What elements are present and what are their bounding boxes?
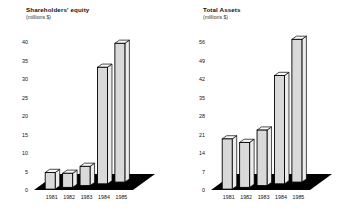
bar-side-face <box>284 72 289 184</box>
bar-front-face <box>274 75 284 183</box>
bar-front-face <box>222 139 232 189</box>
x-axis-label-1982: 1982 <box>63 194 75 200</box>
y-axis-tick-label: 25 <box>22 95 28 101</box>
x-axis-label-1983: 1983 <box>81 194 93 200</box>
y-axis-tick-label: 28 <box>199 113 205 119</box>
bar-chart-svg: 051015202530354019851984198319821981 <box>0 0 177 212</box>
y-axis-tick-label: 0 <box>202 187 205 193</box>
x-axis-label-1981: 1981 <box>223 194 235 200</box>
bar-front-face <box>45 172 55 189</box>
x-axis-label-1985: 1985 <box>115 194 127 200</box>
bar-front-face <box>115 43 125 182</box>
bar-side-face <box>232 136 237 189</box>
bar-1983 <box>80 163 95 185</box>
bar-side-face <box>302 36 307 182</box>
x-axis-label-1984: 1984 <box>98 194 110 200</box>
y-axis-tick-label: 20 <box>22 113 28 119</box>
x-axis-label-1982: 1982 <box>240 194 252 200</box>
bar-1984 <box>274 72 289 184</box>
chart-panel-total-assets: Total Assets (millions $) 07142128354249… <box>177 0 354 212</box>
y-axis-tick-label: 10 <box>22 150 28 156</box>
chart-page: Shareholders' equity (millions $) 051015… <box>0 0 355 212</box>
bar-side-face <box>90 163 95 185</box>
x-axis-label-1985: 1985 <box>292 194 304 200</box>
bar-side-face <box>250 139 255 187</box>
bar-front-face <box>80 166 90 185</box>
bar-1983 <box>257 127 272 186</box>
y-axis-tick-label: 14 <box>199 150 205 156</box>
y-axis-tick-label: 0 <box>25 187 28 193</box>
y-axis-tick-label: 35 <box>199 95 205 101</box>
bar-1982 <box>63 170 77 187</box>
bar-1984 <box>97 64 112 184</box>
y-axis-tick-label: 49 <box>199 58 205 64</box>
bar-1981 <box>45 169 60 189</box>
y-axis-tick-label: 30 <box>22 76 28 82</box>
bar-side-face <box>107 64 112 184</box>
bar-front-face <box>292 39 302 182</box>
bar-front-face <box>240 142 250 187</box>
bar-front-face <box>63 173 73 187</box>
x-axis-label-1983: 1983 <box>258 194 270 200</box>
y-axis-tick-label: 42 <box>199 76 205 82</box>
x-axis-label-1981: 1981 <box>46 194 58 200</box>
bar-1981 <box>222 136 237 189</box>
bar-chart-svg: 071421283542495619851984198319821981 <box>177 0 354 212</box>
bar-front-face <box>257 130 267 186</box>
y-axis-tick-label: 40 <box>22 39 28 45</box>
bar-side-face <box>125 40 130 182</box>
y-axis-tick-label: 56 <box>199 39 205 45</box>
y-axis-tick-label: 21 <box>199 132 205 138</box>
plot-area-shareholders-equity: 051015202530354019851984198319821981 <box>0 0 177 212</box>
bar-front-face <box>97 67 107 184</box>
y-axis-tick-label: 5 <box>25 169 28 175</box>
y-axis-tick-label: 35 <box>22 58 28 64</box>
bar-side-face <box>267 127 272 186</box>
bar-1985 <box>115 40 130 182</box>
y-axis-tick-label: 7 <box>202 169 205 175</box>
y-axis-tick-label: 15 <box>22 132 28 138</box>
bar-1982 <box>240 139 255 187</box>
bar-1985 <box>292 36 307 182</box>
x-axis-label-1984: 1984 <box>275 194 287 200</box>
chart-panel-shareholders-equity: Shareholders' equity (millions $) 051015… <box>0 0 177 212</box>
plot-area-total-assets: 071421283542495619851984198319821981 <box>177 0 354 212</box>
